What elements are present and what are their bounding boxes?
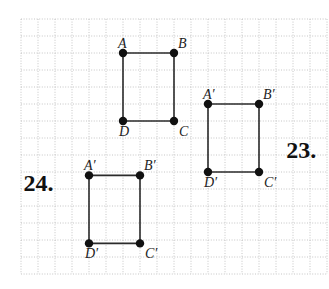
vertex-point — [255, 168, 263, 176]
vertex-label: C′ — [145, 246, 158, 261]
vertex-label: A — [117, 36, 127, 51]
problem-number-label: 23. — [286, 137, 316, 163]
rectangle-image-24: A′B′C′D′24. — [24, 158, 159, 261]
rectangle-original: ABCD — [117, 36, 189, 139]
rectangle-edges — [208, 104, 259, 172]
vertex-label: A′ — [202, 87, 216, 102]
vertex-point — [136, 239, 144, 247]
vertex-label: B′ — [263, 87, 276, 102]
vertex-label: D′ — [84, 246, 99, 261]
translation-diagram: ABCDA′B′C′D′23.A′B′C′D′24. — [0, 0, 329, 289]
vertex-label: B′ — [144, 158, 157, 173]
rectangle-edges — [89, 175, 140, 243]
vertex-label: C — [179, 124, 189, 139]
problem-number-label: 24. — [24, 170, 54, 196]
vertex-point — [170, 49, 178, 57]
vertex-point — [170, 117, 178, 125]
vertex-point — [136, 171, 144, 179]
rectangle-image-23: A′B′C′D′23. — [202, 87, 316, 190]
vertex-label: A′ — [83, 158, 97, 173]
vertex-label: D′ — [203, 175, 218, 190]
vertex-label: C′ — [264, 175, 277, 190]
vertex-label: B — [178, 36, 187, 51]
vertex-label: D — [118, 124, 129, 139]
vertex-point — [255, 100, 263, 108]
